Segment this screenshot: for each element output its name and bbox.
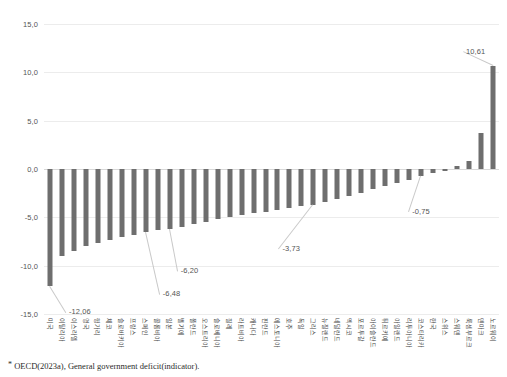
x-axis-label: 멕시코 [346, 318, 352, 336]
bar [143, 169, 148, 232]
bar-slot [319, 24, 331, 314]
bar [131, 169, 136, 235]
bar-slot [307, 24, 319, 314]
bar-slot [248, 24, 260, 314]
x-axis-label: 벨기에 [178, 318, 184, 336]
x-axis-label: 한국 [430, 318, 436, 330]
x-axis-label: 뉴질랜드 [322, 318, 328, 342]
x-axis-label: 체코 [106, 318, 112, 330]
y-axis-tick-label: -5,0 [25, 213, 38, 222]
bar-slot [104, 24, 116, 314]
bar-slot [224, 24, 236, 314]
bar [335, 169, 340, 199]
bar-slot [200, 24, 212, 314]
bar-slot [415, 24, 427, 314]
bar-slot [295, 24, 307, 314]
bar [275, 169, 280, 210]
x-axis-label: 그리스 [310, 318, 316, 336]
bar [371, 169, 376, 189]
x-axis-label: 코스타리카 [418, 318, 424, 348]
bar [431, 169, 436, 173]
bar [239, 169, 244, 215]
x-axis-label: 일본 [166, 318, 172, 330]
data-value-label: -6,48 [163, 289, 181, 298]
y-axis-tick-label: 0,0 [27, 165, 38, 174]
bar [323, 169, 328, 202]
bar [347, 169, 352, 196]
x-axis-label: 라트비아 [238, 318, 244, 342]
bar [155, 169, 160, 230]
footnote-marker: * [8, 360, 12, 369]
bar-slot [56, 24, 68, 314]
plot-area: 15,010,05,00,0-5,0-10,0-15,0 -12,06-6,48… [44, 24, 499, 314]
bar-slot [463, 24, 475, 314]
x-axis-label: 슬로베니아 [214, 318, 220, 348]
data-value-label: -3,73 [282, 244, 300, 253]
bar [119, 169, 124, 237]
x-axis-label: 이스라엘 [71, 318, 77, 342]
bar [191, 169, 196, 224]
bar-slot [164, 24, 176, 314]
x-axis-label: 네덜란드 [334, 318, 340, 342]
bar-slot [451, 24, 463, 314]
x-axis-label: 튀르키예 [382, 318, 388, 342]
bar [107, 169, 112, 240]
bar-slot [391, 24, 403, 314]
bar [167, 169, 172, 229]
x-axis-label: 포르투갈 [358, 318, 364, 342]
bar [467, 161, 472, 169]
x-axis-label: 스위스 [442, 318, 448, 336]
bar [311, 169, 316, 205]
x-axis-label: 영국 [83, 318, 89, 330]
bar-slot [331, 24, 343, 314]
bar [407, 169, 412, 180]
bar-slot [236, 24, 248, 314]
bar [59, 169, 64, 256]
bar-slot [260, 24, 272, 314]
x-axis-label: 아일랜드 [394, 318, 400, 342]
bar-slot [355, 24, 367, 314]
x-axis-label: 이탈리아 [59, 318, 65, 342]
data-value-label: -0,75 [412, 207, 430, 216]
bar [227, 169, 232, 217]
bar-slot [80, 24, 92, 314]
bar [479, 133, 484, 169]
x-axis-label: 콜롬비아 [154, 318, 160, 342]
bar-slot [487, 24, 499, 314]
bar-slot [140, 24, 152, 314]
bar [95, 169, 100, 243]
bar-slot [367, 24, 379, 314]
bar-slot [439, 24, 451, 314]
data-value-label: -12,06 [69, 307, 91, 316]
x-axis-label: 슬로바키아 [118, 318, 124, 348]
x-axis-label: 폴란드 [190, 318, 196, 336]
x-axis-label: 칠레 [226, 318, 232, 330]
bar [179, 169, 184, 227]
bar [251, 169, 256, 213]
gridline--150: -15,0 [44, 314, 499, 315]
bar [263, 169, 268, 212]
bar [443, 169, 448, 171]
x-axis-label: 캐나다 [250, 318, 256, 336]
footnote-text: OECD(2023a), General government deficit(… [14, 361, 199, 371]
bar [215, 169, 220, 219]
y-axis-tick-label: 10,0 [23, 68, 38, 77]
bar-slot [475, 24, 487, 314]
bar [47, 169, 52, 286]
x-axis-label: 헝가리 [94, 318, 100, 336]
bar [383, 169, 388, 186]
x-axis-label: 프랑스 [130, 318, 136, 336]
bar [359, 169, 364, 193]
x-axis-label: 덴마크 [478, 318, 484, 336]
bar-slot [116, 24, 128, 314]
x-axis-label: 호주 [286, 318, 292, 330]
bar-slot [212, 24, 224, 314]
bar [299, 169, 304, 206]
data-value-label: -6,20 [181, 266, 199, 275]
bar [83, 169, 88, 246]
bar-slot [44, 24, 56, 314]
x-axis-label: 오스트리아 [202, 318, 208, 348]
bar [395, 169, 400, 183]
bar-slot [92, 24, 104, 314]
y-axis-tick-label: 5,0 [27, 116, 38, 125]
